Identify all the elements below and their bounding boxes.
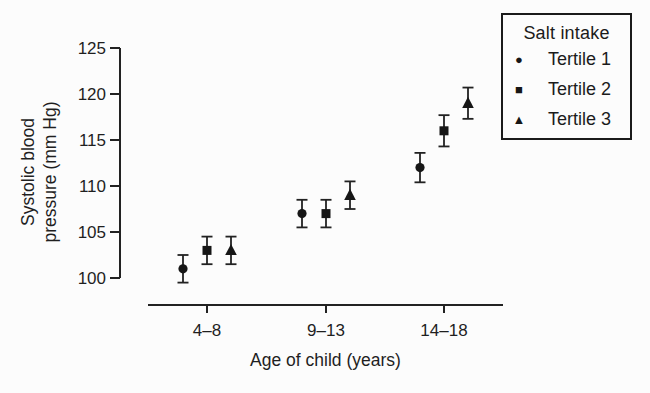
svg-text:100: 100	[78, 269, 106, 288]
y-axis-label: Systolic bloodpressure (mm Hg)	[18, 102, 60, 243]
svg-text:120: 120	[78, 85, 106, 104]
figure-systolic-bp-chart: 100105110115120125 4–89–1314–18 Systolic…	[0, 0, 650, 393]
circle-marker-icon: ●	[511, 53, 527, 66]
svg-text:110: 110	[79, 177, 106, 196]
legend-item-label: Tertile 1	[548, 49, 611, 70]
svg-text:Age of child (years): Age of child (years)	[250, 350, 401, 370]
legend-item-tertile-1: ● Tertile 1	[503, 44, 630, 74]
svg-text:Systolic blood: Systolic blood	[18, 118, 38, 226]
svg-text:pressure (mm Hg): pressure (mm Hg)	[40, 102, 60, 243]
svg-text:105: 105	[78, 223, 106, 242]
x-axis-label: Age of child (years)	[250, 350, 401, 370]
markers-layer	[178, 97, 473, 274]
legend-box: Salt intake ● Tertile 1 ■ Tertile 2 ▲ Te…	[501, 13, 632, 140]
error-bars-layer	[178, 88, 474, 283]
x-axis: 4–89–1314–18	[148, 305, 503, 340]
square-marker-icon: ■	[511, 83, 527, 96]
legend-item-label: Tertile 2	[548, 79, 611, 100]
svg-text:115: 115	[79, 131, 106, 150]
legend-item-tertile-2: ■ Tertile 2	[503, 74, 630, 104]
svg-text:125: 125	[78, 39, 106, 58]
svg-text:9–13: 9–13	[307, 321, 345, 340]
legend-item-label: Tertile 3	[548, 109, 611, 130]
svg-text:14–18: 14–18	[420, 321, 467, 340]
svg-text:4–8: 4–8	[193, 321, 221, 340]
legend-title: Salt intake	[503, 23, 630, 44]
triangle-marker-icon: ▲	[511, 113, 527, 126]
legend-item-tertile-3: ▲ Tertile 3	[503, 104, 630, 134]
y-axis: 100105110115120125	[78, 39, 120, 288]
